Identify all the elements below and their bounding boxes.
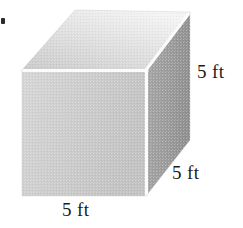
cube-body [22,10,190,196]
dimension-label-depth: 5 ft [172,163,199,182]
cube-figure: 5 ft 5 ft 5 ft [0,0,243,228]
dimension-label-height: 5 ft [197,62,224,81]
bullet-mark [1,18,5,24]
cube-illustration [0,0,243,228]
dimension-label-width: 5 ft [62,200,89,219]
front-face-texture [22,70,146,196]
